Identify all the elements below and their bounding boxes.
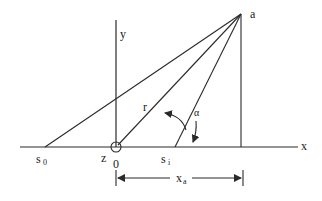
- ray-geometry-diagram: a y x s 0 z 0 r s i α x a: [0, 0, 322, 201]
- s0-subscript: 0: [43, 158, 47, 167]
- alpha-angle-arrow-icon: [193, 121, 196, 142]
- xa-subscript: a: [183, 177, 187, 186]
- apex-label: a: [250, 7, 256, 21]
- r-label: r: [143, 100, 147, 114]
- x-axis-label: x: [301, 139, 307, 153]
- si-subscript: i: [168, 158, 171, 167]
- origin-label: 0: [113, 157, 119, 171]
- alpha-label: α: [194, 107, 200, 118]
- s0-label: s: [36, 152, 41, 166]
- xa-label: x: [176, 171, 182, 185]
- z-label: z: [101, 151, 106, 165]
- ray-to-s0: [45, 14, 241, 147]
- rotation-arrow-icon: [165, 113, 186, 130]
- ray-r-to-origin: [118, 14, 241, 145]
- si-label: s: [161, 152, 166, 166]
- y-axis-label: y: [120, 27, 126, 41]
